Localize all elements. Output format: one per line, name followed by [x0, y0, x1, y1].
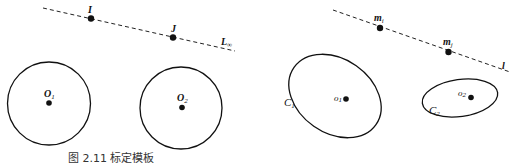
ellipse-c1-center-label: o1	[334, 93, 342, 104]
ellipse-c1-label: C1	[284, 96, 295, 110]
right-panel: mi mj l o1 C1 o2 C2	[273, 10, 510, 155]
circle-o2-center	[179, 105, 185, 111]
point-mi-label: mi	[374, 12, 384, 25]
ellipse-c2-center	[468, 95, 474, 101]
ellipse-c2-label: C2	[429, 104, 440, 118]
circle-o1-label: O1	[44, 88, 55, 101]
circle-o1-center	[46, 100, 52, 106]
point-i	[88, 15, 94, 21]
left-panel: I J L∞ O1 O2 图 2.11 标定模板	[8, 4, 236, 163]
point-j	[170, 34, 176, 40]
point-mi	[377, 25, 383, 31]
image-line-label: l	[502, 60, 505, 71]
point-mj	[445, 49, 451, 55]
ellipse-c1-center	[343, 96, 349, 102]
line-at-infinity	[43, 8, 235, 51]
image-line-l	[333, 10, 510, 72]
circle-o2-label: O2	[177, 92, 188, 105]
point-j-label: J	[170, 23, 177, 34]
figure-caption: 图 2.11 标定模板	[68, 151, 155, 163]
line-at-infinity-label: L∞	[220, 36, 232, 49]
point-i-label: I	[87, 4, 93, 15]
diagram-canvas: I J L∞ O1 O2 图 2.11 标定模板 mi mj l o1 C1 o…	[0, 0, 514, 163]
ellipse-c2-center-label: o2	[458, 88, 467, 99]
point-mj-label: mj	[443, 36, 453, 49]
